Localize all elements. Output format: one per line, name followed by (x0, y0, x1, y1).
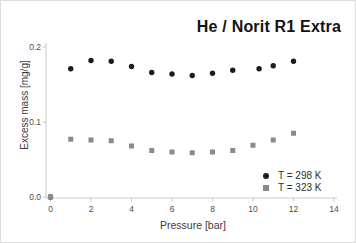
data-point-t-298-k (88, 58, 93, 63)
x-tick-label: 0 (48, 204, 53, 214)
x-tick-label: 6 (170, 204, 175, 214)
data-point-t-298-k (149, 70, 154, 75)
legend-entry-323k: T = 323 K (263, 183, 321, 193)
data-point-t-323-k (170, 150, 175, 155)
x-axis-label: Pressure [bar] (93, 219, 293, 231)
data-point-t-298-k (291, 59, 296, 64)
data-point-t-298-k (210, 71, 215, 76)
legend-label-323k: T = 323 K (278, 183, 321, 193)
data-point-t-323-k (271, 138, 276, 143)
data-point-t-298-k (169, 71, 174, 76)
data-point-t-323-k (291, 131, 296, 136)
data-point-t-298-k (190, 73, 195, 78)
x-tick-label: 12 (289, 204, 299, 214)
data-point-t-298-k (129, 64, 134, 69)
data-point-t-323-k (230, 148, 235, 153)
circle-marker-icon (263, 173, 269, 179)
x-tick-label: 8 (210, 204, 215, 214)
data-point-t-323-k (48, 195, 53, 200)
data-point-t-298-k (230, 68, 235, 73)
plot-area: 024681012140.00.10.2 (1, 1, 356, 243)
x-tick-label: 4 (129, 204, 134, 214)
data-point-t-323-k (210, 150, 215, 155)
y-tick-label: 0.1 (29, 117, 41, 127)
legend: T = 298 K T = 323 K (263, 171, 321, 193)
x-tick-label: 2 (89, 204, 94, 214)
data-point-t-323-k (68, 137, 73, 142)
legend-label-298k: T = 298 K (278, 171, 321, 181)
figure: 024681012140.00.10.2 He / Norit R1 Extra… (0, 0, 356, 243)
square-marker-icon (263, 185, 269, 191)
data-point-t-298-k (256, 66, 261, 71)
data-point-t-298-k (271, 63, 276, 68)
chart-title: He / Norit R1 Extra (181, 18, 356, 36)
data-point-t-323-k (190, 150, 195, 155)
data-point-t-298-k (68, 66, 73, 71)
data-point-t-323-k (89, 138, 94, 143)
x-tick-label: 10 (248, 204, 258, 214)
data-point-t-323-k (129, 144, 134, 149)
data-point-t-298-k (109, 59, 114, 64)
legend-entry-298k: T = 298 K (263, 171, 321, 181)
y-tick-label: 0.0 (29, 192, 41, 202)
data-point-t-323-k (149, 148, 154, 153)
y-tick-label: 0.2 (29, 42, 41, 52)
data-point-t-323-k (109, 138, 114, 143)
y-axis-label: Excess mass [mg/g] (19, 60, 30, 149)
x-tick-label: 14 (329, 204, 339, 214)
data-point-t-323-k (251, 143, 256, 148)
